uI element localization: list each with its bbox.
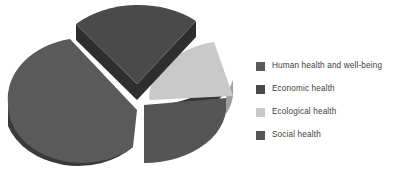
pie-slice-social-health-top [144, 98, 227, 163]
legend-item-human-health-and-well-being[interactable]: Human health and well-being [256, 55, 420, 78]
pie-chart-svg [0, 0, 252, 186]
chart-legend: Human health and well-being Economic hea… [256, 55, 420, 147]
legend-swatch-icon [256, 85, 265, 94]
legend-item-social-health[interactable]: Social health [256, 124, 420, 147]
legend-item-label: Human health and well-being [272, 62, 382, 70]
pie-chart-figure: Human health and well-being Economic hea… [0, 0, 420, 186]
legend-item-ecological-health[interactable]: Ecological health [256, 101, 420, 124]
legend-item-label: Social health [272, 131, 321, 139]
legend-swatch-icon [256, 62, 265, 71]
legend-swatch-icon [256, 131, 265, 140]
legend-swatch-icon [256, 108, 265, 117]
legend-item-label: Ecological health [272, 108, 336, 116]
legend-item-label: Economic health [272, 85, 335, 93]
pie-plot-area [0, 0, 252, 186]
legend-item-economic-health[interactable]: Economic health [256, 78, 420, 101]
